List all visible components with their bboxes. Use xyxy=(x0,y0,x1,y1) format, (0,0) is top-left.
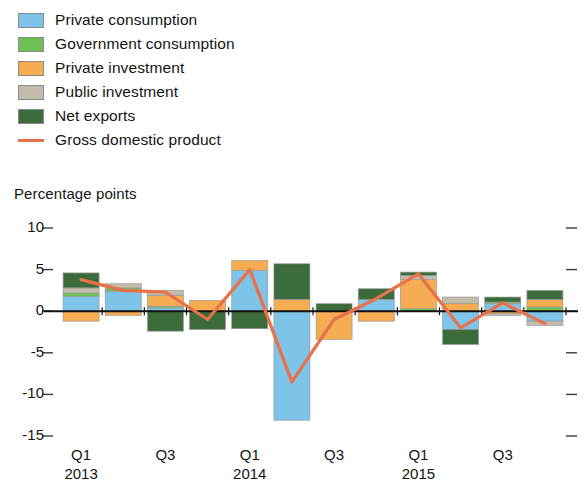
y-axis-title: Percentage points xyxy=(14,185,137,202)
plot-area: 1050-5-10-15 xyxy=(0,210,584,445)
x-axis-quarter-label: Q3 xyxy=(304,446,364,463)
gdp-contribution-chart: Private consumptionGovernment consumptio… xyxy=(0,0,584,488)
bar-segment xyxy=(316,311,352,339)
bar-group xyxy=(485,297,521,315)
x-axis-year-label: 2014 xyxy=(220,465,280,482)
legend-item: Public investment xyxy=(18,80,338,104)
bar-segment xyxy=(316,304,352,311)
y-axis-tick-label: 5 xyxy=(0,260,44,277)
y-axis-tick-label: -10 xyxy=(0,384,44,401)
chart-legend: Private consumptionGovernment consumptio… xyxy=(18,8,338,152)
legend-color-swatch xyxy=(18,61,44,76)
x-axis-year-label: 2013 xyxy=(51,465,111,482)
bar-segment xyxy=(63,311,99,321)
legend-item: Net exports xyxy=(18,104,338,128)
x-axis-quarter-label: Q1 xyxy=(388,446,448,463)
bar-segment xyxy=(443,330,479,345)
x-axis-year-label: 2015 xyxy=(388,465,448,482)
legend-color-swatch xyxy=(18,85,44,100)
bar-segment xyxy=(147,311,183,331)
legend-item-label: Net exports xyxy=(55,108,135,124)
bar-group xyxy=(527,290,563,325)
bar-segment xyxy=(443,297,479,304)
y-axis-tick-label: 0 xyxy=(0,301,44,318)
bar-segment xyxy=(274,300,310,312)
legend-item-label: Gross domestic product xyxy=(55,132,221,148)
legend-color-swatch xyxy=(18,109,44,124)
legend-item: Private consumption xyxy=(18,8,338,32)
bar-segment xyxy=(63,288,99,293)
bar-segment xyxy=(63,296,99,311)
legend-line-swatch xyxy=(18,139,44,142)
legend-item-label: Private investment xyxy=(55,60,184,76)
bar-segment xyxy=(358,311,394,321)
legend-item-label: Private consumption xyxy=(55,12,197,28)
bar-group xyxy=(274,264,310,420)
x-axis-quarter-label: Q1 xyxy=(51,446,111,463)
y-axis-tick-label: -5 xyxy=(0,343,44,360)
legend-item: Government consumption xyxy=(18,32,338,56)
y-axis-tick-label: -15 xyxy=(0,426,44,443)
bar-segment xyxy=(105,291,141,311)
bar-segment xyxy=(400,280,436,309)
x-axis-quarter-label: Q3 xyxy=(473,446,533,463)
y-axis-tick-label: 10 xyxy=(0,218,44,235)
x-axis-quarter-label: Q3 xyxy=(135,446,195,463)
legend-color-swatch xyxy=(18,37,44,52)
x-axis-quarter-label: Q1 xyxy=(220,446,280,463)
legend-item: Private investment xyxy=(18,56,338,80)
bar-segment xyxy=(232,311,268,328)
bar-segment xyxy=(485,314,521,316)
legend-item: Gross domestic product xyxy=(18,128,338,152)
bar-segment xyxy=(527,300,563,307)
plot-svg xyxy=(0,210,584,445)
bar-segment xyxy=(527,290,563,299)
bar-segment xyxy=(63,293,99,296)
bar-segment xyxy=(274,264,310,300)
legend-item-label: Public investment xyxy=(55,84,178,100)
legend-item-label: Government consumption xyxy=(55,36,235,52)
legend-color-swatch xyxy=(18,13,44,28)
